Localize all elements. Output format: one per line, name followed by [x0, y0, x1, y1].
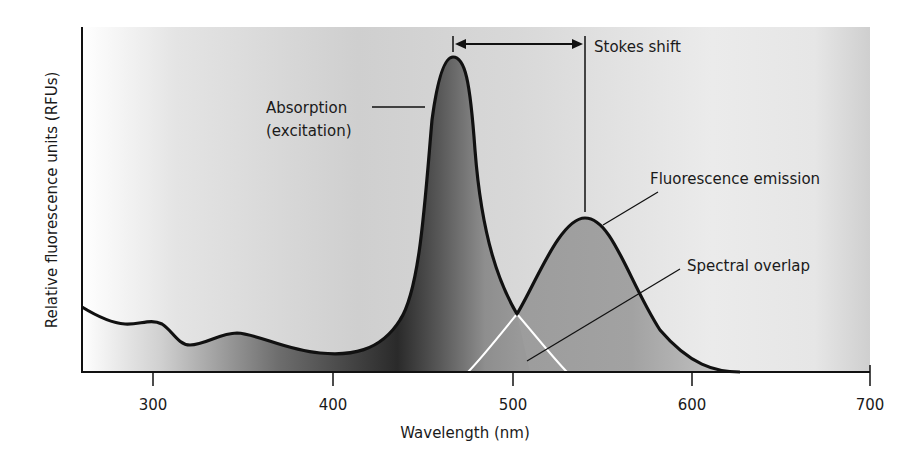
- absorption-label-sub: (excitation): [266, 122, 352, 140]
- y-axis-label: Relative fluorescence units (RFUs): [43, 72, 61, 329]
- x-tick-label-400: 400: [319, 396, 348, 414]
- x-tick-label-500: 500: [499, 396, 528, 414]
- stokes-shift-label: Stokes shift: [594, 38, 681, 56]
- overlap-label: Spectral overlap: [687, 257, 810, 275]
- fluorescence-spectrum-chart: 300 400 500 600 700 Wavelength (nm) Rela…: [0, 0, 919, 466]
- absorption-label: Absorption: [266, 99, 347, 117]
- x-tick-label-300: 300: [139, 396, 168, 414]
- x-tick-label-600: 600: [678, 396, 707, 414]
- emission-label: Fluorescence emission: [650, 170, 820, 188]
- x-tick-label-700: 700: [856, 396, 885, 414]
- x-axis-label: Wavelength (nm): [400, 424, 530, 442]
